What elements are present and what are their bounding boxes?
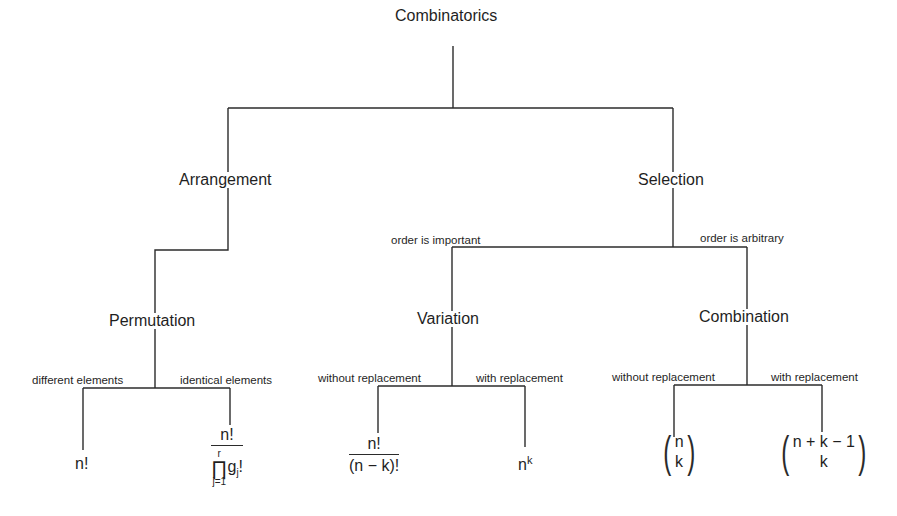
denominator: r ∏ j=1 gj! (211, 446, 243, 487)
edge-label-different-elements: different elements (32, 375, 123, 387)
fraction: n! (n − k)! (349, 436, 399, 474)
left-paren: ( (663, 430, 671, 474)
formula-permutation-identical: n! r ∏ j=1 gj! (211, 427, 243, 487)
binomial-coefficient: ( n k ) (660, 430, 698, 474)
node-variation: Variation (416, 311, 480, 327)
edge-label-identical-elements: identical elements (180, 375, 272, 387)
binomial-coefficient: ( n + k − 1 k ) (778, 430, 870, 474)
edge-to-arrangement (155, 108, 228, 388)
formula-combination-without: ( n k ) (660, 430, 698, 474)
formula-n-factorial: n! (75, 456, 88, 472)
right-paren: ) (687, 430, 695, 474)
node-combination: Combination (698, 309, 790, 325)
tree-diagram (0, 0, 897, 516)
node-selection: Selection (637, 172, 705, 188)
numerator: n! (216, 427, 237, 445)
edge-label-order-important: order is important (391, 235, 480, 247)
edge-label-order-arbitrary: order is arbitrary (700, 233, 784, 245)
left-paren: ( (781, 430, 789, 474)
power-exponent: k (527, 454, 533, 466)
product-operator: r ∏ j=1 (211, 449, 227, 487)
power-base: n (518, 456, 527, 473)
node-combinatorics: Combinatorics (394, 8, 498, 24)
edge-label-combination-with-replacement: with replacement (771, 372, 858, 384)
denominator: (n − k)! (349, 455, 399, 474)
formula-variation-without: n! (n − k)! (349, 436, 399, 474)
product-lower-limit: j=1 (212, 477, 226, 487)
binomial-stack: n k (675, 434, 684, 470)
node-permutation: Permutation (108, 313, 196, 329)
binomial-stack: n + k − 1 k (793, 434, 855, 470)
binomial-top: n (675, 434, 684, 450)
right-paren: ) (858, 430, 866, 474)
binomial-top: n + k − 1 (793, 434, 855, 450)
numerator: n! (363, 436, 384, 454)
formula-variation-with: nk (518, 455, 532, 473)
fraction: n! r ∏ j=1 gj! (211, 427, 243, 487)
edge-label-variation-without-replacement: without replacement (318, 373, 421, 385)
node-arrangement: Arrangement (178, 172, 273, 188)
formula-combination-with: ( n + k − 1 k ) (778, 430, 870, 474)
edge-label-combination-without-replacement: without replacement (612, 372, 715, 384)
product-symbol: ∏ (211, 459, 227, 477)
product-term-suffix: ! (239, 459, 243, 476)
edge-label-variation-with-replacement: with replacement (476, 373, 563, 385)
binomial-bottom: k (675, 454, 683, 470)
binomial-bottom: k (820, 454, 828, 470)
